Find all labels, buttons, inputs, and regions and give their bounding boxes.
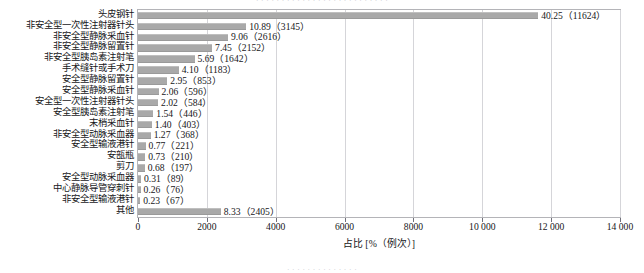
category-label: 安全型输液港针 [71, 140, 135, 151]
bar-row: 0.77（221） [138, 141, 620, 152]
bar-row: 10.89（3145） [138, 21, 620, 32]
x-tick-label: 6000 [335, 222, 354, 232]
bar-row: 2.95（853） [138, 75, 620, 86]
bar [138, 44, 212, 51]
bar-value-label: 2.06（596） [162, 87, 213, 97]
category-label: 中心静脉导管穿刺针 [53, 183, 135, 194]
bar [138, 121, 152, 128]
category-label: 安全型静脉采血针 [62, 85, 135, 96]
bar-row: 0.68（197） [138, 163, 620, 174]
category-label: 末梢采血针 [89, 118, 135, 129]
bar [138, 164, 145, 171]
category-label: 非安全型输液港针 [62, 194, 135, 205]
bar-value-label: 0.23（67） [143, 196, 189, 206]
bar-row: 2.06（596） [138, 86, 620, 97]
x-axis-tick-labels: 0200040006000800010 00012 00014 000 [0, 222, 644, 236]
bar [138, 197, 140, 204]
bar-value-label: 9.06（2616） [231, 32, 287, 42]
category-label: 头皮钢针 [98, 9, 135, 20]
bar [138, 66, 179, 73]
bar-value-label: 0.31（89） [144, 174, 190, 184]
bar-value-label: 7.45（2152） [215, 43, 271, 53]
bar [138, 34, 228, 41]
bar-row: 8.33（2405） [138, 206, 620, 217]
bar-row: 0.26（76） [138, 184, 620, 195]
bar-row: 0.73（210） [138, 152, 620, 163]
x-tick-label: 8000 [404, 222, 423, 232]
bar [138, 153, 145, 160]
bar-row: 4.10（1183） [138, 64, 620, 75]
bar-row: 5.69（1642） [138, 54, 620, 65]
category-label: 其他 [116, 205, 135, 216]
bar-value-label: 4.10（1183） [182, 65, 238, 75]
category-label: 手术缝针或手术刀 [62, 63, 135, 74]
bar-row: 9.06（2616） [138, 32, 620, 43]
x-axis-title: 占比 [%（例次）] [137, 236, 621, 250]
bar [138, 55, 195, 62]
bar-row: 1.27（368） [138, 130, 620, 141]
bar-value-label: 40.25（11624） [541, 11, 606, 21]
bar-value-label: 0.73（210） [148, 152, 199, 162]
bar-value-label: 1.54（446） [156, 109, 207, 119]
bar-value-label: 0.77（221） [149, 141, 200, 151]
bar-row: 40.25（11624） [138, 10, 620, 21]
x-tick-label: 12 000 [538, 222, 564, 232]
bar-value-label: 10.89（3145） [249, 22, 310, 32]
bar-value-label: 5.69（1642） [198, 54, 254, 64]
category-label: 安全型胰岛素注射笔 [53, 107, 135, 118]
category-axis-labels: 头皮钢针非安全型一次性注射器针头非安全型静脉采血针非安全型静脉留置针非安全型胰岛… [0, 9, 135, 218]
bar-value-label: 1.27（368） [154, 130, 205, 140]
bar [138, 142, 146, 149]
bar-row: 1.54（446） [138, 108, 620, 119]
category-label: 安全型一次性注射器针头 [35, 96, 135, 107]
bar-value-label: 2.95（853） [170, 76, 221, 86]
x-tick-label: 0 [136, 222, 141, 232]
bar [138, 23, 246, 30]
bar-row: 7.45（2152） [138, 43, 620, 54]
bar-row: 0.23（67） [138, 195, 620, 206]
category-label: 安瓿瓶 [107, 151, 135, 162]
gridline [620, 10, 621, 217]
x-tick-label: 10 000 [469, 222, 495, 232]
x-tick-label: 4000 [266, 222, 285, 232]
bar [138, 208, 221, 215]
bar [138, 110, 153, 117]
category-label: 剪刀 [116, 162, 135, 173]
plot-area: 40.25（11624）10.89（3145）9.06（2616）7.45（21… [137, 9, 621, 218]
bar [138, 186, 141, 193]
bar [138, 99, 158, 106]
bar-value-label: 0.26（76） [144, 185, 190, 195]
bar-value-label: 0.68（197） [148, 163, 199, 173]
category-label: 安全型静脉留置针 [62, 74, 135, 85]
bar-rows: 40.25（11624）10.89（3145）9.06（2616）7.45（21… [138, 10, 620, 217]
category-label: 非安全型胰岛素注射笔 [44, 53, 135, 64]
bar [138, 175, 141, 182]
bar-row: 0.31（89） [138, 173, 620, 184]
category-label: 非安全型静脉留置针 [53, 42, 135, 53]
bar [138, 77, 167, 84]
bar-value-label: 8.33（2405） [224, 207, 280, 217]
bar [138, 132, 151, 139]
x-tick-label: 14 000 [607, 222, 633, 232]
bar-row: 2.02（584） [138, 97, 620, 108]
bar [138, 88, 159, 95]
category-label: 非安全型一次性注射器针头 [26, 20, 135, 31]
x-tick-label: 2000 [197, 222, 216, 232]
bar-row: 1.40（403） [138, 119, 620, 130]
bar [138, 12, 538, 19]
bar-value-label: 2.02（584） [161, 98, 212, 108]
bar-value-label: 1.40（403） [155, 120, 206, 130]
category-label: 安全型动脉采血器 [62, 172, 135, 183]
